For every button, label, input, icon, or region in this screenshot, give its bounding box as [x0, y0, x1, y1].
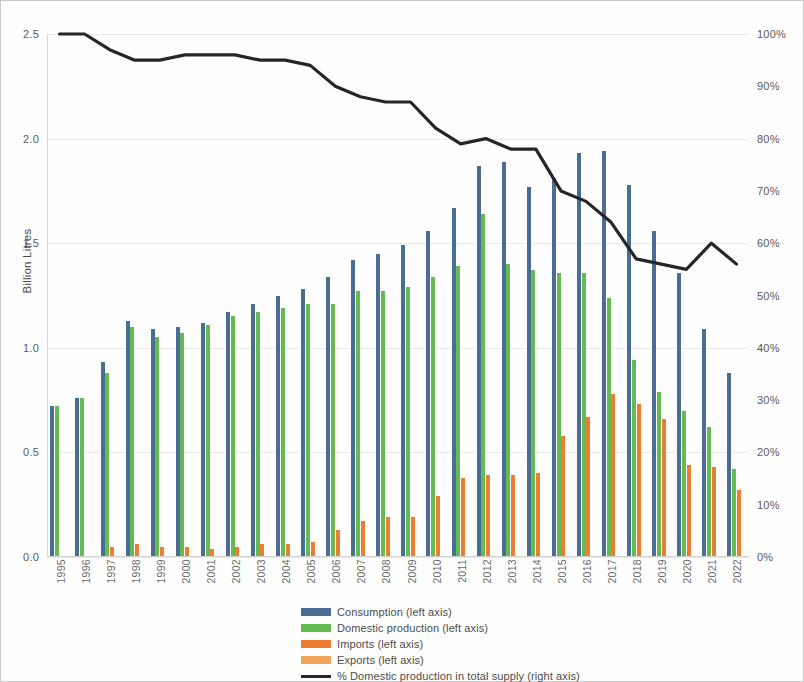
bar [176, 327, 180, 557]
legend-item[interactable]: Consumption (left axis) [301, 605, 580, 619]
bar [737, 490, 741, 557]
x-axis-tick-label: 2000 [180, 559, 192, 584]
bar [101, 362, 105, 557]
bar-group [649, 34, 674, 557]
legend-line-swatch-icon [301, 675, 331, 678]
bar [552, 178, 556, 557]
bar [301, 289, 305, 557]
bar-group [147, 34, 172, 557]
y-axis-right-tick-label: 50% [757, 290, 803, 302]
bar [306, 304, 310, 557]
bar [707, 427, 711, 557]
bar [481, 214, 485, 557]
bar-group [298, 34, 323, 557]
bar [151, 329, 155, 557]
legend-item-label: Exports (left axis) [337, 654, 424, 666]
bar-group [47, 34, 72, 557]
y-axis-right-tick-label: 10% [757, 499, 803, 511]
bar [557, 273, 561, 558]
bar-group [323, 34, 348, 557]
legend-item[interactable]: % Domestic production in total supply (r… [301, 669, 580, 682]
bar [251, 304, 255, 557]
bar [502, 162, 506, 557]
y-axis-left-tick-label: 0.0 [7, 551, 39, 563]
bar [586, 417, 590, 557]
bar [607, 298, 611, 557]
bar [506, 264, 510, 557]
bar-group [122, 34, 147, 557]
y-axis-title-wrapper: Billion Litres [15, 161, 35, 361]
bar-group [423, 34, 448, 557]
bar [126, 321, 130, 557]
bar-group [348, 34, 373, 557]
bar [401, 245, 405, 557]
y-axis-left-tick-label: 2.5 [7, 28, 39, 40]
bar-group [197, 34, 222, 557]
bar [662, 419, 666, 557]
bar [687, 465, 691, 557]
legend-item-label: Domestic production (left axis) [337, 622, 488, 634]
bar [632, 360, 636, 557]
bar [531, 270, 535, 557]
x-axis-tick-label: 2001 [205, 559, 217, 584]
x-axis-tick-label: 2005 [305, 559, 317, 584]
bar-group [498, 34, 523, 557]
bar-group [248, 34, 273, 557]
bar-group [523, 34, 548, 557]
bar [381, 291, 385, 557]
plot-area [47, 34, 749, 557]
y-axis-left-tick-label: 2.0 [7, 133, 39, 145]
bar [436, 496, 440, 557]
bar [582, 273, 586, 558]
bar-group [724, 34, 749, 557]
x-axis-tick-label: 2014 [531, 559, 543, 584]
bar [256, 312, 260, 557]
bar-group [624, 34, 649, 557]
bar [180, 333, 184, 557]
bar [406, 287, 410, 557]
legend-item[interactable]: Imports (left axis) [301, 637, 580, 651]
bar [627, 185, 631, 557]
bar-group [172, 34, 197, 557]
bar [361, 521, 365, 557]
bar-group [699, 34, 724, 557]
bar [80, 398, 84, 557]
bar [536, 473, 540, 557]
legend-item-label: % Domestic production in total supply (r… [337, 670, 580, 682]
x-axis-tick-label: 2016 [581, 559, 593, 584]
x-axis-tick-label: 2012 [481, 559, 493, 584]
legend-color-swatch-icon [301, 608, 331, 616]
x-axis-tick-label: 1999 [155, 559, 167, 584]
bar [677, 273, 681, 558]
chart-figure: Billion Litres 0.00.51.01.52.02.5 0%10%2… [0, 0, 804, 682]
x-axis-labels: 1995199619971998199920002001200220032004… [47, 559, 749, 603]
bar [561, 436, 565, 557]
y-axis-right-tick-label: 0% [757, 551, 803, 563]
x-axis-tick-label: 2007 [355, 559, 367, 584]
legend-item[interactable]: Domestic production (left axis) [301, 621, 580, 635]
bar [527, 187, 531, 557]
bar [311, 542, 315, 557]
bar-group [574, 34, 599, 557]
x-axis-tick-label: 2021 [706, 559, 718, 584]
bar [712, 467, 716, 557]
x-axis-tick-label: 2019 [656, 559, 668, 584]
bar [727, 373, 731, 557]
x-axis-tick-label: 2006 [330, 559, 342, 584]
bar [226, 312, 230, 557]
legend-item-label: Imports (left axis) [337, 638, 423, 650]
x-axis-tick-label: 1996 [80, 559, 92, 584]
bar [356, 291, 360, 557]
bar [652, 231, 656, 557]
y-axis-right-tick-label: 90% [757, 80, 803, 92]
bar-group [223, 34, 248, 557]
x-axis-tick-label: 2013 [506, 559, 518, 584]
x-axis-tick-label: 2002 [230, 559, 242, 584]
bar [426, 231, 430, 557]
legend-item[interactable]: Exports (left axis) [301, 653, 580, 667]
bar [75, 398, 79, 557]
bar [351, 260, 355, 557]
legend-item-label: Consumption (left axis) [337, 606, 452, 618]
bar-group [674, 34, 699, 557]
gridline [47, 557, 749, 558]
